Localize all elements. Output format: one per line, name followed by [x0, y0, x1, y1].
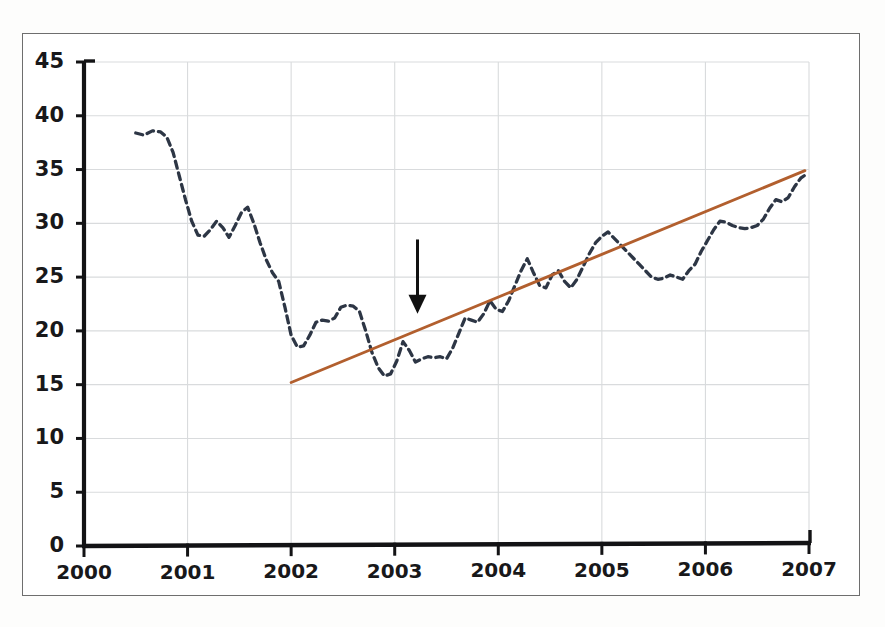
series-line-dashed	[136, 131, 807, 376]
x-axis-tick-label: 2001	[146, 560, 230, 584]
chart-plot-area	[0, 0, 885, 627]
arrow-head	[409, 295, 427, 314]
x-axis-tick-label: 2003	[353, 559, 437, 583]
axes-layer	[76, 61, 811, 557]
x-axis-tick-label: 2004	[456, 558, 540, 582]
y-axis-tick-label: 20	[18, 318, 64, 342]
gridlines-layer	[84, 62, 809, 546]
data-series-layer	[136, 131, 807, 383]
x-axis-line	[82, 543, 811, 546]
y-axis-tick-label: 15	[18, 372, 64, 396]
y-axis-tick-label: 45	[18, 49, 64, 73]
x-axis-tick-label: 2002	[249, 559, 333, 583]
y-axis-tick-label: 30	[18, 210, 64, 234]
y-axis-tick-label: 0	[18, 533, 64, 557]
x-axis-tick-label: 2005	[560, 558, 644, 582]
x-axis-tick-label: 2000	[42, 560, 126, 584]
y-axis-tick-label: 40	[18, 103, 64, 127]
y-axis-tick-label: 10	[18, 425, 64, 449]
figure-container: 051015202530354045 200020012002200320042…	[0, 0, 885, 627]
x-axis-tick-label: 2007	[767, 557, 851, 581]
y-axis-tick-label: 5	[18, 479, 64, 503]
y-axis-tick-label: 35	[18, 157, 64, 181]
x-axis-tick-label: 2006	[663, 557, 747, 581]
y-axis-tick-label: 25	[18, 264, 64, 288]
